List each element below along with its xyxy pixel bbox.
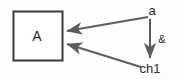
diagram-svg: A a ch1 &: [0, 0, 178, 79]
ampersand-operator-label: &: [158, 33, 166, 45]
signal-ch1-label[interactable]: ch1: [140, 61, 161, 76]
node-labels-group: a ch1 &: [140, 3, 167, 76]
edge-a-to-block: [67, 17, 148, 31]
block-a-group[interactable]: A: [14, 12, 63, 61]
diagram-canvas: A a ch1 &: [0, 0, 178, 79]
signal-a-label[interactable]: a: [148, 3, 156, 18]
block-a-label: A: [32, 28, 42, 44]
edge-ch1-to-block: [67, 44, 141, 67]
edges-group: [67, 17, 150, 67]
